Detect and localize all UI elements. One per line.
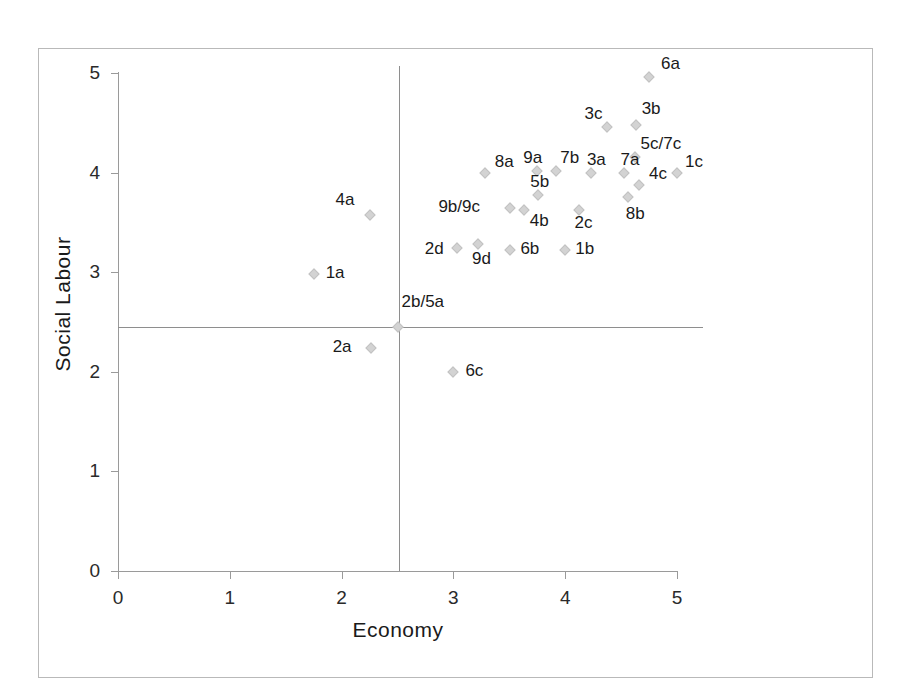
x-tick (118, 571, 119, 579)
data-point-label: 4b (530, 212, 549, 229)
quadrant-horizontal-line (118, 327, 703, 328)
x-tick-label: 4 (550, 588, 580, 607)
plot-frame (38, 48, 873, 678)
x-tick-label: 0 (103, 588, 133, 607)
x-tick-label: 5 (662, 588, 692, 607)
y-axis-line (118, 72, 119, 572)
x-tick-label: 1 (215, 588, 245, 607)
x-tick (230, 571, 231, 579)
data-point-label: 6b (520, 240, 539, 257)
y-axis-title: Social Labour (51, 194, 75, 414)
y-tick-label: 1 (78, 461, 100, 480)
x-tick (453, 571, 454, 579)
data-point-label: 5c/7c (641, 135, 682, 152)
y-tick (111, 471, 119, 472)
data-point-label: 9b/9c (438, 198, 480, 215)
y-tick-label: 2 (78, 362, 100, 381)
data-point-label: 4a (336, 191, 355, 208)
data-point-label: 3b (642, 100, 661, 117)
data-point-label: 2c (575, 214, 593, 231)
data-point-label: 9a (523, 149, 542, 166)
data-point-label: 8a (495, 153, 514, 170)
x-axis-line (118, 571, 678, 572)
data-point-label: 9d (472, 250, 491, 267)
data-point-label: 1c (685, 153, 703, 170)
data-point-label: 1b (575, 240, 594, 257)
data-point-label: 4c (649, 165, 667, 182)
y-tick (111, 173, 119, 174)
data-point-label: 7b (560, 149, 579, 166)
y-tick (111, 372, 119, 373)
y-tick-label: 4 (78, 163, 100, 182)
data-point-label: 3c (585, 105, 603, 122)
chart-figure: 012345 012345 6a3c3b5c/7c9a7b3a7a1c8a4c5… (0, 0, 919, 697)
x-tick-label: 3 (438, 588, 468, 607)
y-tick-label: 0 (78, 561, 100, 580)
x-tick-label: 2 (327, 588, 357, 607)
data-point-label: 1a (326, 264, 345, 281)
y-tick-label: 5 (78, 63, 100, 82)
y-tick-label: 3 (78, 262, 100, 281)
data-point-label: 2b/5a (402, 293, 445, 310)
data-point-label: 3a (587, 151, 606, 168)
data-point-label: 2d (425, 240, 444, 257)
quadrant-vertical-line (399, 66, 400, 571)
x-tick (565, 571, 566, 579)
data-point-label: 5b (530, 173, 549, 190)
y-tick (111, 73, 119, 74)
x-tick (677, 571, 678, 579)
x-axis-title: Economy (118, 618, 678, 642)
data-point-label: 8b (626, 205, 645, 222)
data-point-label: 7a (620, 151, 639, 168)
y-tick (111, 272, 119, 273)
x-tick (342, 571, 343, 579)
data-point-label: 6c (465, 362, 483, 379)
data-point-label: 6a (661, 55, 680, 72)
data-point-label: 2a (333, 338, 352, 355)
